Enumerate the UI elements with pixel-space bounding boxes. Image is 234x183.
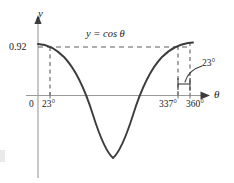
x-axis-label: θ xyxy=(214,89,219,100)
callout-leader-line xyxy=(185,66,202,82)
y-axis xyxy=(34,15,41,178)
x-tick-label-360: 360° xyxy=(186,100,204,110)
curve-equation-label: y = cos θ xyxy=(86,29,125,40)
page-edge-artifact xyxy=(0,150,5,162)
x-tick-label-337: 337° xyxy=(159,100,177,110)
x-tick-label-23: 23° xyxy=(42,100,55,110)
interval-bracket xyxy=(178,78,190,90)
y-axis-label: y xyxy=(38,8,43,19)
y-value-label: 0.92 xyxy=(9,42,27,52)
origin-label: 0 xyxy=(29,100,34,110)
interval-callout-label: 23° xyxy=(202,59,215,69)
cosine-graph-figure: y θ 0.92 0 23° 337° 360° y = cos θ 23° xyxy=(0,0,234,183)
